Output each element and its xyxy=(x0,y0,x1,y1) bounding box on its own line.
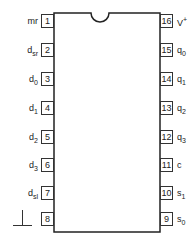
pin-6-label-sub: 3 xyxy=(34,165,38,172)
pin-1: 1 xyxy=(41,14,54,28)
pin-7-label: dsl xyxy=(28,187,38,203)
pin-9: 9 xyxy=(160,212,173,226)
pin-16-label-sup: + xyxy=(183,16,187,23)
pin-12: 12 xyxy=(160,130,173,144)
pin-14-label-sub: 1 xyxy=(182,79,186,86)
pin-14: 14 xyxy=(160,72,173,86)
pin-15-label: q0 xyxy=(177,44,186,60)
pin-12-label: q3 xyxy=(177,131,186,147)
pin-10: 10 xyxy=(160,186,173,200)
pin-9-label-sub: 0 xyxy=(182,219,186,226)
pin-14-label: q1 xyxy=(177,73,186,89)
pin-2-label-sub: sr xyxy=(32,50,38,57)
chip-body-outline xyxy=(0,0,194,240)
pin-8: 8 xyxy=(41,212,54,226)
pin-3: 3 xyxy=(41,72,54,86)
pin-4-label-sub: 1 xyxy=(34,108,38,115)
pin-10-label: s1 xyxy=(177,187,185,203)
pin-10-label-sub: 1 xyxy=(182,193,186,200)
pin-7: 7 xyxy=(41,186,54,200)
pin-7-label-sub: sl xyxy=(33,193,38,200)
pin-1-label-text: mr xyxy=(28,16,39,26)
pin-3-label-sub: 0 xyxy=(34,79,38,86)
pin-16-label: V+ xyxy=(177,14,187,29)
pin-13-label-sub: 2 xyxy=(182,108,186,115)
pin-4: 4 xyxy=(41,101,54,115)
pin-11-label-text: c xyxy=(177,160,182,170)
ground-icon-stem xyxy=(22,210,23,225)
pin-5-label: d2 xyxy=(29,131,38,147)
pin-5: 5 xyxy=(41,130,54,144)
pin-11: 11 xyxy=(160,158,173,172)
pin-12-label-sub: 3 xyxy=(182,137,186,144)
ground-icon xyxy=(13,225,32,226)
pin-15-label-sub: 0 xyxy=(182,50,186,57)
pin-16: 16 xyxy=(160,14,173,28)
pin-2-label: dsr xyxy=(27,44,38,60)
pin-6: 6 xyxy=(41,158,54,172)
pin-1-label: mr xyxy=(28,15,39,27)
pin-13-label: q2 xyxy=(177,102,186,118)
pin-13: 13 xyxy=(160,101,173,115)
pin-9-label: s0 xyxy=(177,213,185,229)
pin-3-label: d0 xyxy=(29,73,38,89)
pin-2: 2 xyxy=(41,43,54,57)
pin-11-label: c xyxy=(177,159,182,171)
pin-6-label: d3 xyxy=(29,159,38,175)
pin-15: 15 xyxy=(160,43,173,57)
pin-5-label-sub: 2 xyxy=(34,137,38,144)
pin-4-label: d1 xyxy=(29,102,38,118)
